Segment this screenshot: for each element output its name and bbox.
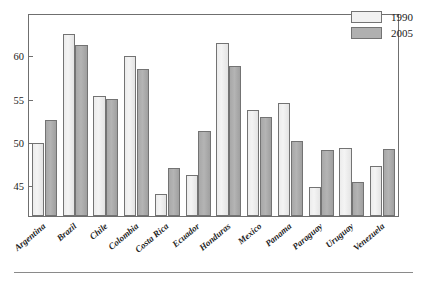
legend-swatch-1990: [351, 11, 382, 23]
x-tick-label: Mexico: [236, 221, 263, 246]
x-tick-label: Venezuela: [351, 221, 386, 253]
chart-figure: 45505560 ArgentinaBrazilChileColombiaCos…: [0, 0, 427, 286]
legend-label-2005: 2005: [391, 27, 413, 39]
chart-legend: 1990 2005: [347, 8, 417, 46]
x-tick-label: Chile: [88, 221, 110, 242]
y-tick-mark: [28, 56, 33, 57]
y-tick-mark: [28, 100, 33, 101]
x-tick-label: Uruguay: [324, 221, 356, 250]
y-tick-mark: [28, 143, 33, 144]
legend-swatch-2005: [351, 27, 382, 39]
y-tick-mark: [28, 186, 33, 187]
legend-item-2005: 2005: [351, 27, 413, 39]
footer-rule: [14, 272, 413, 273]
x-tick-label: Argentina: [13, 221, 48, 253]
x-tick-label: Paraguay: [291, 221, 325, 252]
legend-label-1990: 1990: [391, 11, 413, 23]
x-tick-label: Costa Rica: [134, 221, 171, 255]
x-tick-label: Panama: [264, 221, 294, 249]
x-tick-label: Honduras: [197, 221, 232, 253]
legend-item-1990: 1990: [351, 11, 413, 23]
x-tick-label: Brazil: [55, 221, 79, 243]
